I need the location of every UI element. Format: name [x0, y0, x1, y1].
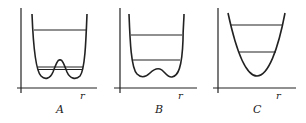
- panel-a-label: A: [55, 103, 64, 116]
- potential-wells-figure: r A r B r C: [0, 0, 306, 123]
- panel-a-r-label: r: [80, 90, 86, 101]
- panel-b-potential-curve: [129, 14, 184, 77]
- panel-b-label: B: [154, 103, 163, 116]
- panel-c-label: C: [253, 103, 262, 116]
- panel-c-potential-curve: [228, 13, 285, 76]
- panel-a: [17, 8, 97, 93]
- panel-a-potential-curve: [32, 14, 87, 78]
- panel-b-r-label: r: [178, 90, 184, 101]
- panel-c: [213, 8, 296, 93]
- panel-b: [114, 8, 197, 93]
- panel-c-r-label: r: [276, 90, 282, 101]
